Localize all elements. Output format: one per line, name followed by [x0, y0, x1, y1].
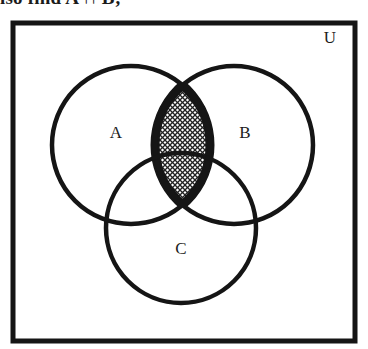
universe-label-u: U [324, 28, 336, 47]
set-label-a: A [110, 123, 123, 142]
set-label-c: C [175, 239, 186, 258]
venn-diagram-figure: A B C U [0, 0, 368, 349]
set-label-b: B [239, 123, 250, 142]
venn-diagram-page: lso find A ∩ B; [0, 0, 368, 349]
